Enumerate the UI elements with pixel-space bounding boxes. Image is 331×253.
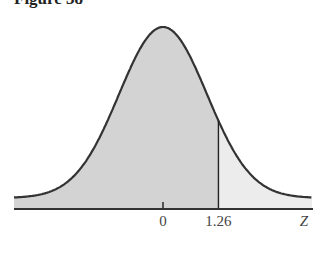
tick-label-zero: 0 — [159, 213, 167, 230]
tick-label-cutoff: 1.26 — [205, 213, 231, 230]
x-axis-label: Z — [300, 213, 308, 230]
